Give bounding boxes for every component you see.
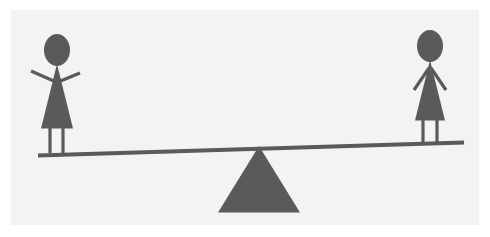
seesaw-plank-group <box>38 143 464 156</box>
left-figure-arm-right <box>58 73 80 82</box>
left-figure-head <box>44 34 70 66</box>
left-figure-arm-left <box>31 71 56 82</box>
right-figure-head <box>417 30 443 62</box>
seesaw-diagram <box>0 0 490 237</box>
left-figure-body <box>41 64 73 129</box>
triangle-fulcrum <box>218 146 300 213</box>
illustration-canvas <box>0 0 490 237</box>
triangle-fulcrum-group <box>218 146 300 213</box>
seesaw-plank <box>38 143 464 156</box>
stick-figure-right <box>414 30 446 142</box>
stick-figure-left <box>31 34 80 153</box>
